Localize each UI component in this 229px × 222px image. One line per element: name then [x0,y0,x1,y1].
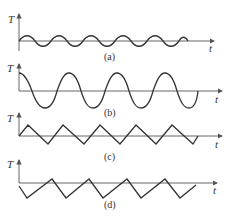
caption-b: (b) [104,107,116,119]
caption-d: (d) [104,199,116,211]
panel-a: T t (a) [8,13,214,63]
x-label-d: t [213,184,217,196]
panel-b: T t (b) [7,62,222,119]
caption-c: (c) [104,151,115,163]
y-label-b: T [7,62,14,74]
waveform-c [19,125,198,144]
x-label-b: t [215,93,219,105]
waveform-figure: T t (a) T t (b) T t (c) T t (d) [0,0,229,222]
y-label-a: T [8,13,15,25]
caption-a: (a) [104,51,115,63]
y-label-d: T [7,158,14,170]
panel-c: T t (c) [7,112,222,163]
x-label-a: t [209,42,213,54]
x-label-c: t [215,138,219,150]
y-label-c: T [7,112,14,124]
waveform-b [19,73,198,108]
panel-d: T t (d) [7,158,217,211]
waveform-d [19,179,196,198]
